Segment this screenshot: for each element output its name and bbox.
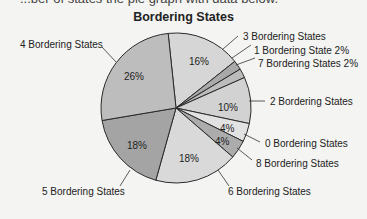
pct-4-bordering: 26% bbox=[124, 71, 144, 82]
pct-3-bordering: 16% bbox=[189, 56, 209, 67]
pct-8-bordering: 4% bbox=[215, 136, 230, 147]
label-5-bordering: 5 Bordering States bbox=[42, 186, 125, 197]
label-2-bordering: 2 Bordering States bbox=[270, 96, 353, 107]
label-3-bordering: 3 Bordering States bbox=[243, 31, 326, 42]
label-6-bordering: 6 Bordering States bbox=[228, 186, 311, 197]
label-0-bordering: 0 Bordering States bbox=[265, 138, 348, 149]
label-7-bordering: 7 Bordering States 2% bbox=[258, 58, 358, 69]
label-1-bordering: 1 Bordering State 2% bbox=[254, 45, 349, 56]
pie-chart: 3 Bordering States 1 Bordering State 2% … bbox=[0, 0, 367, 219]
pct-5-bordering: 18% bbox=[127, 140, 147, 151]
label-8-bordering: 8 Bordering States bbox=[256, 158, 339, 169]
label-4-bordering: 4 Bordering States bbox=[20, 39, 103, 50]
pct-2-bordering: 10% bbox=[218, 102, 238, 113]
pct-0-bordering: 4% bbox=[220, 123, 235, 134]
pct-6-bordering: 18% bbox=[179, 153, 199, 164]
